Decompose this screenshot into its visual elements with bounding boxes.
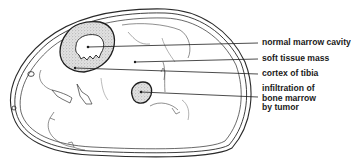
fascia-contour xyxy=(20,18,241,149)
muscle-compartment-line xyxy=(50,112,55,120)
label-line: by tumor xyxy=(262,103,316,113)
muscle-compartment-line xyxy=(122,24,190,58)
label-line: cortex of tibia xyxy=(262,69,318,79)
muscle-compartment-line xyxy=(101,78,108,100)
muscle-compartment-line xyxy=(150,103,178,110)
leader-line-infiltration xyxy=(140,91,258,97)
leader-line-cortex-of-tibia xyxy=(74,67,258,74)
muscle-compartment-line xyxy=(162,38,175,62)
muscle-compartment-line xyxy=(182,100,189,120)
muscle-compartment-line xyxy=(163,62,165,92)
label-normal-marrow-cavity: normal marrow cavity xyxy=(262,38,351,48)
label-infiltration-of-bone-marrow: infiltration of bone marrow by tumor xyxy=(262,84,316,113)
label-cortex-of-tibia: cortex of tibia xyxy=(262,69,318,79)
muscle-compartment-line xyxy=(128,32,150,44)
leader-line-soft-tissue-mass xyxy=(134,59,258,63)
muscle-compartment-line xyxy=(52,90,72,103)
muscle-compartment-line xyxy=(40,70,52,90)
label-soft-tissue-mass: soft tissue mass xyxy=(262,54,329,64)
muscle-compartment-line xyxy=(77,84,92,104)
label-line: normal marrow cavity xyxy=(262,38,351,48)
label-line: soft tissue mass xyxy=(262,54,329,64)
muscle-compartment-line xyxy=(172,108,180,114)
